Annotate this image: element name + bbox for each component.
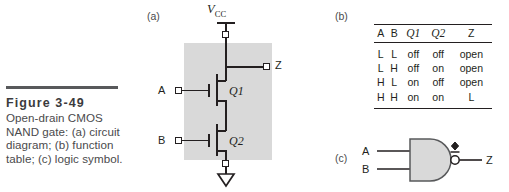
q1-label: Q1 bbox=[229, 84, 244, 99]
cell-q1: on bbox=[401, 76, 426, 90]
nand-gate-body bbox=[410, 139, 451, 181]
circuit-shade-box bbox=[184, 43, 272, 160]
open-drain-diamond-icon bbox=[451, 142, 460, 152]
inversion-bubble-icon bbox=[451, 156, 459, 164]
b-pin-label: B bbox=[158, 134, 165, 146]
table-header-q2: Q2 bbox=[426, 25, 451, 43]
q2-drain-stub bbox=[218, 130, 226, 132]
ground-arrow-icon bbox=[216, 172, 236, 188]
cell-b: L bbox=[387, 43, 400, 62]
q1-gate-wire bbox=[181, 90, 209, 92]
vcc-label-v: V bbox=[207, 2, 215, 16]
vcc-stub-wire bbox=[225, 23, 227, 31]
output-horizontal-wire bbox=[225, 66, 265, 68]
table-header-b: B bbox=[387, 25, 400, 43]
part-label-b: (b) bbox=[335, 10, 348, 22]
circuit-diagram: VCC Q1 Z A Q2 bbox=[150, 0, 310, 192]
table-bottom-rule bbox=[374, 108, 492, 109]
cell-q1: off bbox=[401, 62, 426, 76]
cell-z: open bbox=[451, 76, 492, 90]
logic-input-a-label: A bbox=[362, 145, 369, 157]
q1-drain-to-output-wire bbox=[225, 66, 227, 81]
cell-b: H bbox=[387, 62, 400, 76]
vcc-label-sub: CC bbox=[215, 9, 227, 19]
cell-a: H bbox=[374, 90, 387, 108]
function-table-foot bbox=[374, 108, 492, 109]
z-pin-label: Z bbox=[275, 59, 282, 71]
table-row: H L on off open bbox=[374, 76, 492, 90]
q2-gate-wire bbox=[181, 140, 209, 142]
figure-number: Figure 3-49 bbox=[6, 96, 134, 110]
a-input-terminal[interactable] bbox=[175, 87, 182, 94]
function-table-element: A B Q1 Q2 Z L L off off open L H bbox=[374, 24, 492, 109]
b-input-terminal[interactable] bbox=[175, 137, 182, 144]
table-header-a: A bbox=[374, 25, 387, 43]
q1-source-to-q2-drain-wire bbox=[225, 100, 227, 131]
cell-a: L bbox=[374, 62, 387, 76]
cell-z: open bbox=[451, 43, 492, 62]
logic-output-z-label: Z bbox=[486, 154, 493, 166]
figure-caption-block: Figure 3-49 Open-drain CMOS NAND gate: (… bbox=[6, 86, 134, 165]
table-row: L L off off open bbox=[374, 43, 492, 62]
cell-q1: on bbox=[401, 90, 426, 108]
table-header-row: A B Q1 Q2 Z bbox=[374, 25, 492, 43]
table-bottom-rule-row bbox=[374, 108, 492, 109]
cell-q2: on bbox=[426, 62, 451, 76]
cell-z: open bbox=[451, 62, 492, 76]
table-header-z: Z bbox=[451, 25, 492, 43]
function-table: A B Q1 Q2 Z L L off off open L H bbox=[374, 24, 492, 109]
logic-input-b-label: B bbox=[362, 163, 369, 175]
table-row: L H off on open bbox=[374, 62, 492, 76]
table-header-q1: Q1 bbox=[401, 25, 426, 43]
part-label-c: (c) bbox=[335, 152, 347, 164]
q2-label: Q2 bbox=[229, 134, 244, 149]
cell-q2: on bbox=[426, 90, 451, 108]
cell-q2: off bbox=[426, 43, 451, 62]
figure-caption-text: Open-drain CMOS NAND gate: (a) circuit d… bbox=[6, 111, 134, 165]
table-row: H H on on L bbox=[374, 90, 492, 108]
caption-rule bbox=[6, 86, 118, 89]
cell-q2: off bbox=[426, 76, 451, 90]
nand-gate-svg bbox=[355, 134, 505, 192]
cell-q1: off bbox=[401, 43, 426, 62]
figure-3-49: Figure 3-49 Open-drain CMOS NAND gate: (… bbox=[0, 0, 509, 192]
function-table-body: L L off off open L H off on open H L on bbox=[374, 43, 492, 109]
cell-b: L bbox=[387, 76, 400, 90]
cell-z: L bbox=[451, 90, 492, 108]
cell-a: H bbox=[374, 76, 387, 90]
a-pin-label: A bbox=[158, 84, 165, 96]
z-terminal[interactable] bbox=[263, 63, 270, 70]
cell-b: H bbox=[387, 90, 400, 108]
logic-symbol: A B Z bbox=[355, 134, 505, 192]
function-table-head: A B Q1 Q2 Z bbox=[374, 25, 492, 43]
vcc-label: VCC bbox=[207, 2, 226, 19]
cell-a: L bbox=[374, 43, 387, 62]
